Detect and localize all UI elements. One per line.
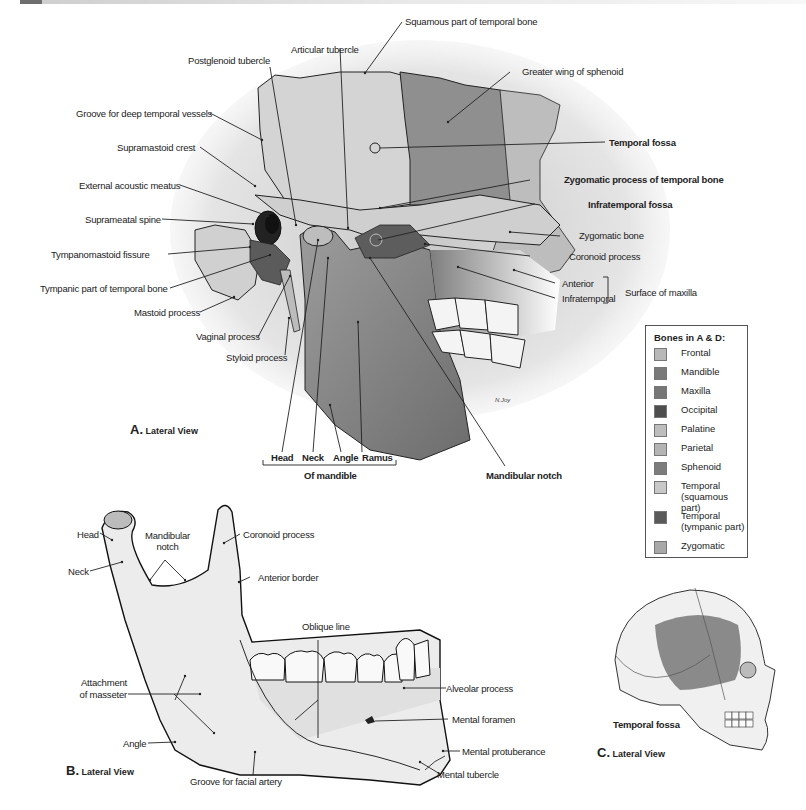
label-ramus-a: Ramus	[362, 452, 393, 463]
label-infratemporal: Infratemporal	[562, 293, 615, 304]
swatch-mandible	[654, 367, 667, 380]
label-mandibular-notch-a: Mandibular notch	[486, 470, 562, 481]
label-mandibular-notch-b-line2: notch	[145, 541, 190, 552]
swatch-zygomatic	[654, 541, 667, 554]
legend-label: Zygomatic	[681, 540, 725, 551]
artist-signature: N.Joy	[495, 397, 511, 403]
label-tympanic-part: Tympanic part of temporal bone	[40, 283, 168, 294]
label-squamous-part: Squamous part of temporal bone	[405, 16, 537, 27]
legend-label: Temporal(tympanic part)	[681, 510, 744, 532]
panel-a-letter: A.	[130, 422, 143, 437]
legend-item-occipital: Occipital	[654, 404, 747, 423]
panel-c-caption: C. Lateral View	[597, 745, 665, 760]
swatch-palatine	[654, 424, 667, 437]
legend-item-temporal-squamous: Temporal(squamous part)	[654, 480, 747, 510]
label-styloid-process: Styloid process	[226, 352, 287, 363]
swatch-frontal	[654, 348, 667, 361]
swatch-maxilla	[654, 386, 667, 399]
legend-label: Palatine	[681, 423, 715, 434]
legend-label: Sphenoid	[681, 461, 721, 472]
label-zygomatic-process: Zygomatic process of temporal bone	[564, 174, 723, 185]
label-groove-facial-artery: Groove for facial artery	[190, 776, 282, 787]
panel-b-caption: B. Lateral View	[66, 763, 134, 778]
label-attachment-masseter-line1: Attachment	[70, 677, 127, 688]
label-zygomatic-bone: Zygomatic bone	[579, 230, 644, 241]
swatch-temporal-squamous	[654, 481, 667, 494]
label-postglenoid-tubercle: Postglenoid tubercle	[188, 55, 270, 66]
bones-legend: Bones in A & D: Frontal Mandible Maxilla…	[645, 325, 748, 558]
legend-label: Parietal	[681, 442, 713, 453]
label-mental-protuberance: Mental protuberance	[462, 746, 545, 757]
legend-label: Frontal	[681, 347, 711, 358]
label-attachment-masseter-line2: of masseter	[70, 689, 127, 700]
panel-a-skull: N.Joy	[162, 22, 670, 466]
legend-label-line1: Temporal	[681, 480, 720, 491]
label-coronoid-process-a: Coronoid process	[569, 251, 640, 262]
panel-a-caption: A. Lateral View	[130, 422, 198, 437]
label-anterior: Anterior	[562, 278, 594, 289]
label-coronoid-process-b: Coronoid process	[243, 529, 314, 540]
label-oblique-line: Oblique line	[302, 621, 350, 632]
label-head-a: Head	[271, 452, 293, 463]
legend-item-parietal: Parietal	[654, 442, 747, 461]
label-of-mandible: Of mandible	[304, 470, 357, 481]
label-mandibular-notch-b-line1: Mandibular	[145, 530, 190, 541]
label-vaginal-process: Vaginal process	[196, 331, 260, 342]
legend-item-frontal: Frontal	[654, 347, 747, 366]
label-supramastoid-crest: Supramastoid crest	[117, 142, 195, 153]
label-suprameatal-spine: Suprameatal spine	[85, 214, 161, 225]
label-mastoid-process: Mastoid process	[134, 307, 200, 318]
label-angle-b: Angle	[123, 738, 146, 749]
label-neck-a: Neck	[302, 452, 324, 463]
panel-c-letter: C.	[597, 745, 610, 760]
legend-label: Occipital	[681, 404, 717, 415]
swatch-temporal-tympanic	[654, 511, 667, 524]
legend-label: Mandible	[681, 366, 720, 377]
panel-c-view-label: Lateral View	[613, 749, 665, 759]
label-neck-b: Neck	[68, 566, 89, 577]
label-temporal-fossa-c: Temporal fossa	[613, 719, 680, 730]
label-temporal-fossa: Temporal fossa	[609, 137, 676, 148]
label-mental-tubercle: Mental tubercle	[437, 769, 499, 780]
legend-label-line1: Temporal	[681, 510, 720, 521]
label-mental-foramen: Mental foramen	[452, 714, 515, 725]
panel-b-view-label: Lateral View	[82, 767, 134, 777]
legend-label-line2: (tympanic part)	[681, 521, 744, 532]
swatch-sphenoid	[654, 462, 667, 475]
legend-title: Bones in A & D:	[654, 332, 747, 343]
legend-label: Temporal(squamous part)	[681, 480, 747, 513]
swatch-parietal	[654, 443, 667, 456]
label-tympanomastoid-fissure: Tympanomastoid fissure	[51, 249, 150, 260]
legend-item-sphenoid: Sphenoid	[654, 461, 747, 480]
panel-b-letter: B.	[66, 763, 79, 778]
legend-item-temporal-tympanic: Temporal(tympanic part)	[654, 510, 747, 540]
legend-item-maxilla: Maxilla	[654, 385, 747, 404]
legend-item-mandible: Mandible	[654, 366, 747, 385]
label-groove-deep-temporal: Groove for deep temporal vessels	[76, 108, 212, 119]
panel-a-view-label: Lateral View	[146, 426, 198, 436]
legend-label: Maxilla	[681, 385, 711, 396]
label-head-b: Head	[77, 529, 99, 540]
label-anterior-border: Anterior border	[258, 572, 318, 583]
swatch-occipital	[654, 405, 667, 418]
legend-item-zygomatic: Zygomatic	[654, 540, 747, 559]
label-surface-of-maxilla: Surface of maxilla	[625, 287, 697, 298]
legend-item-palatine: Palatine	[654, 423, 747, 442]
label-articular-tubercle: Articular tubercle	[291, 44, 359, 55]
label-infratemporal-fossa: Infratemporal fossa	[588, 199, 672, 210]
label-alveolar-process: Alveolar process	[446, 683, 513, 694]
label-external-acoustic-meatus: External acoustic meatus	[79, 180, 180, 191]
label-angle-a: Angle	[333, 452, 358, 463]
label-greater-wing-sphenoid: Greater wing of sphenoid	[522, 66, 623, 77]
